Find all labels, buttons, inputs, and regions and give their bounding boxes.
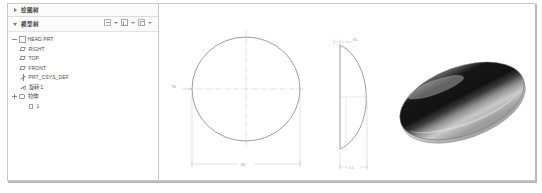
drawing-canvas[interactable]: R1 Ø2 (160, 4, 535, 180)
coordinate-system-icon (20, 74, 27, 81)
tree-item-label: HEAD.PRT (28, 36, 54, 43)
tree-item-top[interactable]: TOP (12, 54, 158, 64)
display-settings-icon[interactable] (138, 19, 145, 26)
chevron-right-icon[interactable] (12, 6, 20, 14)
datum-plane-icon (20, 65, 27, 72)
side-profile-view: R1 1.5 (334, 38, 367, 171)
dimension-label-diameter: Ø2 (241, 163, 246, 167)
tree-item-label: RIGHT (29, 46, 45, 53)
frame-drop-shadow-right (535, 4, 537, 183)
dimension-label-radius: R1 (172, 85, 176, 89)
tree-item-label: TOP (29, 55, 40, 62)
tree-item-revolve-1[interactable]: 旋转 1 (12, 83, 158, 93)
expand-toggle-icon[interactable] (12, 94, 18, 100)
drawing-svg: R1 Ø2 (160, 4, 535, 180)
model-tree: HEAD.PRT RIGHT TOP FRONT (8, 32, 158, 111)
tree-item-label: FRONT (29, 65, 47, 72)
tree-item-prt-csys-def[interactable]: PRT_CSYS_DEF (12, 73, 158, 83)
tree-columns-icon[interactable] (121, 19, 128, 26)
tree-item-label: PRT_CSYS_DEF (29, 74, 69, 81)
tree-item-head-prt[interactable]: HEAD.PRT (12, 35, 158, 45)
cad-screenshot-root: 绘图树 模型树 HEAD (0, 0, 542, 193)
tree-item-label: 1 (37, 103, 40, 110)
sheet-icon (28, 103, 35, 110)
panel-header-model-tree[interactable]: 模型树 (8, 17, 158, 32)
panel-header-drawing-tree[interactable]: 绘图树 (8, 4, 158, 17)
datum-plane-icon (20, 55, 27, 62)
shaded-3d-view[interactable] (389, 47, 535, 159)
chevron-down-icon[interactable] (12, 20, 20, 28)
app-frame: 绘图树 模型树 HEAD (7, 3, 535, 181)
datum-plane-icon (20, 46, 27, 53)
panel-title-model-tree: 模型树 (21, 20, 40, 28)
tree-item-right[interactable]: RIGHT (12, 45, 158, 55)
filter-settings-icon[interactable] (104, 19, 111, 26)
chevron-down-icon[interactable] (131, 22, 135, 24)
tree-item-label: 拉伸 (28, 93, 38, 100)
extrude-feature-icon (19, 93, 26, 100)
dimension-label-thickness: 1.5 (349, 166, 354, 170)
tree-item-child-1[interactable]: 1 (12, 102, 158, 112)
collapse-toggle-icon[interactable] (12, 37, 18, 43)
tree-toolbar (104, 19, 154, 26)
part-icon (19, 36, 26, 43)
front-circle-view: R1 Ø2 (172, 30, 304, 167)
chevron-down-icon[interactable] (148, 22, 152, 24)
chevron-down-icon[interactable] (114, 22, 118, 24)
panel-title-drawing-tree: 绘图树 (21, 6, 40, 14)
tree-item-front[interactable]: FRONT (12, 64, 158, 74)
tree-item-label: 旋转 1 (29, 84, 44, 91)
tree-item-extrude[interactable]: 拉伸 (12, 92, 158, 102)
model-tree-sidebar: 绘图树 模型树 HEAD (8, 4, 159, 180)
frame-drop-shadow-bottom (8, 181, 536, 183)
revolve-feature-icon (20, 84, 27, 91)
dimension-label-side-top: R1 (353, 38, 357, 42)
